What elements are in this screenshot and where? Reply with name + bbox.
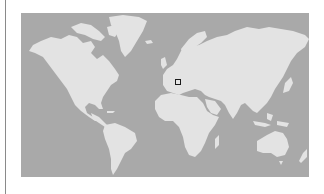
world-map-svg [21,13,309,177]
location-marker[interactable] [175,79,181,85]
world-map[interactable] [21,13,309,177]
left-divider-line [5,0,6,194]
